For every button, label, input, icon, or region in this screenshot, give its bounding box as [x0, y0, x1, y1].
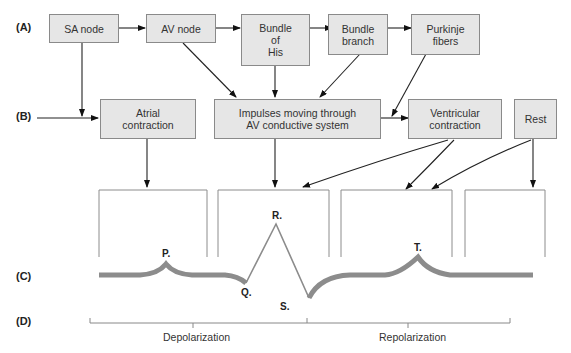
wave-label-t: T. [414, 242, 422, 253]
bundle-branch-box: Bundle branch [328, 14, 388, 55]
repolarization-label: Repolarization [379, 331, 446, 343]
rest-box: Rest [514, 99, 557, 139]
depolarization-label: Depolarization [163, 331, 230, 343]
wave-label-p: P. [162, 248, 170, 259]
wave-label-s: S. [280, 301, 289, 312]
ventricular-contraction-box: Ventricular contraction [408, 99, 502, 139]
av-node-box: AV node [146, 14, 216, 43]
wave-label-q: Q. [241, 287, 252, 298]
atrial-contraction-box: Atrial contraction [100, 99, 196, 139]
purkinje-fibers-box: Purkinje fibers [411, 14, 480, 55]
impulses-av-system-box: Impulses moving through AV conductive sy… [214, 99, 381, 139]
sa-node-box: SA node [49, 14, 119, 43]
bundle-of-his-box: Bundle of His [241, 14, 310, 66]
wave-label-r: R. [272, 210, 282, 221]
